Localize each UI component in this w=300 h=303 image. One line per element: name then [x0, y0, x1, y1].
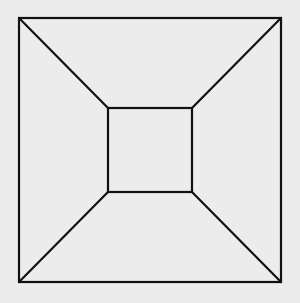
diagram-canvas: [0, 0, 300, 303]
nested-squares-figure: [0, 0, 300, 303]
